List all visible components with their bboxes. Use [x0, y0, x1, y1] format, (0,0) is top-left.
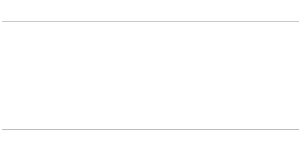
- legend-swatch-social-liberals: [61, 9, 68, 16]
- legend-swatch-social-conservatives: [4, 9, 11, 16]
- legend-swatch-social-moderates: [32, 9, 39, 16]
- legend-item-social-conservatives: [4, 9, 15, 16]
- legend-item-social-liberals: [61, 9, 72, 16]
- x-axis: [0, 132, 301, 148]
- legend-item-social-moderates: [32, 9, 43, 16]
- plot-area: [0, 21, 301, 130]
- plot-svg: [0, 21, 301, 130]
- chart-container: [0, 0, 301, 157]
- chart-legend: [0, 6, 301, 19]
